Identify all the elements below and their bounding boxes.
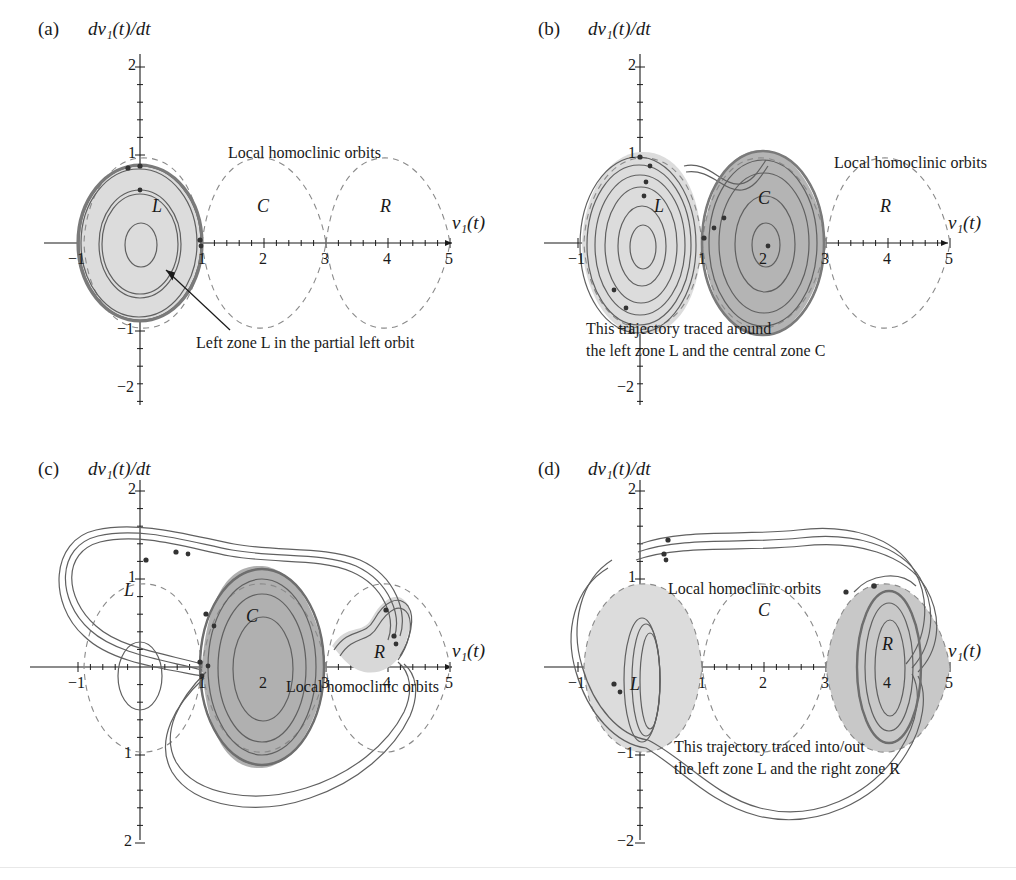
- panel-c-xtick-5: 5: [445, 674, 453, 692]
- panel-b-zone-label-C: C: [758, 188, 770, 209]
- panel-a-zone-label-L: L: [152, 196, 162, 217]
- panel-d-zone-label-R: R: [882, 634, 893, 655]
- panel-a-xtick-2: 2: [259, 250, 267, 268]
- panel-d: (d) dv₁(t)/dt v₁(t): [508, 440, 1016, 880]
- panel-d-xtick-5: 5: [945, 674, 953, 692]
- panel-b-plot: [508, 0, 1016, 440]
- panel-c-ytick-1: 1: [128, 568, 136, 586]
- panel-a-xtick-neg1: −1: [68, 250, 85, 268]
- panel-a-xtick-5: 5: [445, 250, 453, 268]
- panel-c-zone-label-R: R: [374, 642, 385, 663]
- panel-a-plot: [0, 0, 508, 440]
- panel-c-ytick-2: 2: [128, 480, 136, 498]
- panel-a-xtick-1: 1: [198, 250, 206, 268]
- panel-b-xtick-1: 1: [698, 250, 706, 268]
- panel-a-ytick-1: 1: [128, 144, 136, 162]
- panel-b: (b) dv₁(t)/dt v₁(t): [508, 0, 1016, 440]
- panel-b-annotation-line1: This trajectory traced around: [586, 318, 771, 340]
- panel-a-xtick-4: 4: [383, 250, 391, 268]
- panel-b-annotation-line2: the left zone L and the central zone C: [586, 340, 825, 362]
- panel-a-xtick-3: 3: [321, 250, 329, 268]
- panel-a: (a) dv₁(t)/dt v₁(t): [0, 0, 508, 440]
- panel-d-ytick-1: 1: [628, 568, 636, 586]
- panel-d-ytick-neg2: −2: [617, 832, 634, 850]
- panel-c-ytick-neg1: 1: [124, 744, 132, 762]
- panel-a-ytick-neg1: −1: [117, 320, 134, 338]
- panel-c-homoclinic-label: Local homoclinic orbits: [286, 676, 439, 698]
- panel-b-xtick-3: 3: [821, 250, 829, 268]
- panel-d-zone-label-L: L: [630, 674, 640, 695]
- panel-b-ytick-neg2: −2: [617, 378, 634, 396]
- panel-b-ytick-2: 2: [628, 56, 636, 74]
- panel-a-ytick-2: 2: [128, 56, 136, 74]
- panel-d-plot: [508, 440, 1016, 880]
- figure-root: (a) dv₁(t)/dt v₁(t): [0, 0, 1016, 880]
- panel-d-ytick-neg1: −1: [617, 744, 634, 762]
- panel-b-xtick-4: 4: [883, 250, 891, 268]
- panel-b-ytick-1: 1: [628, 144, 636, 162]
- panel-b-homoclinic-label: Local homoclinic orbits: [834, 152, 987, 174]
- panel-b-zone-label-R: R: [880, 196, 891, 217]
- panel-d-annotation-line2: the left zone L and the right zone R: [674, 758, 900, 780]
- panel-d-xtick-4: 4: [883, 674, 891, 692]
- panel-b-zone-label-L: L: [654, 196, 664, 217]
- panel-c-zone-label-C: C: [246, 606, 258, 627]
- panel-d-xtick-2: 2: [759, 674, 767, 692]
- page-bottom-rule: [0, 867, 1016, 880]
- panel-d-homoclinic-label: Local homoclinic orbits: [668, 578, 821, 600]
- panel-c-xtick-1: 1: [198, 674, 206, 692]
- panel-d-ytick-2: 2: [628, 480, 636, 498]
- panel-d-xtick-neg1: −1: [568, 674, 585, 692]
- panel-a-zone-label-C: C: [257, 196, 269, 217]
- panel-b-xtick-neg1: −1: [568, 250, 585, 268]
- panel-a-zone-label-R: R: [380, 196, 391, 217]
- panel-c-xtick-2: 2: [259, 674, 267, 692]
- panel-b-xtick-5: 5: [945, 250, 953, 268]
- panel-d-xtick-3: 3: [821, 674, 829, 692]
- panel-c-plot: [0, 440, 508, 880]
- panel-c: (c) dv₁(t)/dt v₁(t): [0, 440, 508, 880]
- panel-a-annotation: Left zone L in the partial left orbit: [196, 332, 414, 354]
- panel-a-homoclinic-label: Local homoclinic orbits: [228, 142, 381, 164]
- panel-b-xtick-2: 2: [759, 250, 767, 268]
- panel-c-xtick-neg1: −1: [68, 674, 85, 692]
- panel-d-annotation-line1: This trajectory traced into/out: [674, 736, 865, 758]
- panel-d-zone-label-C: C: [758, 600, 770, 621]
- panel-a-ytick-neg2: −2: [117, 378, 134, 396]
- panel-d-xtick-1: 1: [698, 674, 706, 692]
- panel-c-ytick-neg2: 2: [124, 832, 132, 850]
